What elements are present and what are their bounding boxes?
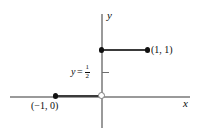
filled-point-minus-one-zero-marker <box>53 93 59 99</box>
point-one-one-label: (1, 1) <box>151 45 173 55</box>
half-label-equals: = <box>77 67 83 77</box>
segment-at-y-equals-one <box>101 49 147 51</box>
fraction-numerator: 1 <box>85 64 91 71</box>
half-label-variable: y <box>71 67 75 77</box>
y-axis-label: y <box>107 10 112 21</box>
segment-on-x-axis <box>55 95 101 97</box>
y-axis-line <box>101 14 103 128</box>
fraction-denominator: 2 <box>85 73 91 80</box>
x-axis-label: x <box>183 98 188 109</box>
filled-point-one-one-marker <box>145 47 151 53</box>
y-equals-one-half-label: y = 1 2 <box>71 64 90 80</box>
filled-point-zero-one-marker <box>99 47 105 53</box>
coordinate-plane-figure: y x (1, 1) (−1, 0) y = 1 2 <box>0 0 199 139</box>
y-half-tick-mark <box>102 72 109 73</box>
open-point-origin-marker <box>98 92 105 99</box>
one-half-fraction: 1 2 <box>85 64 91 80</box>
point-minus-one-zero-label: (−1, 0) <box>31 101 58 111</box>
